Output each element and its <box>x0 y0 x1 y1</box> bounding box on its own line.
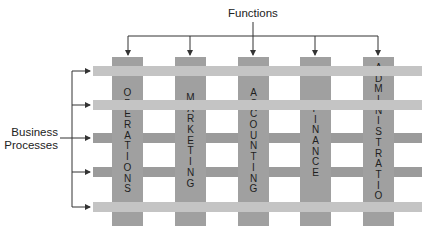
connector-lines <box>0 0 429 231</box>
process-arrows <box>60 71 90 207</box>
functions-arrows <box>128 22 378 55</box>
